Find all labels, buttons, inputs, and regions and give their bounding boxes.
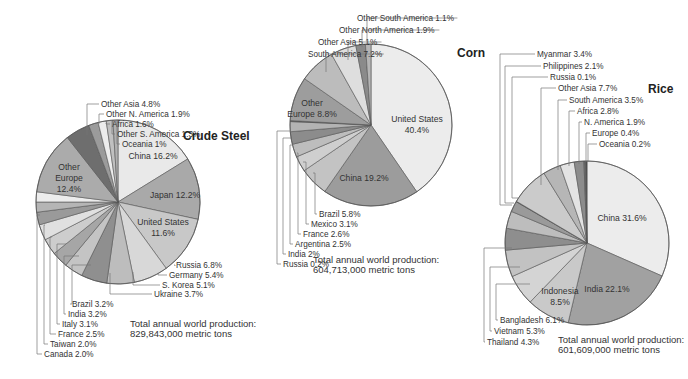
crude-steel-pie [36,120,200,284]
leader-line [37,215,42,354]
crude-steel-title: Crude Steel [183,129,250,143]
slice-label: Bangladesh 6.1% [500,316,564,325]
slice-label: Other North America 1.9% [339,26,435,35]
inside-slice-label: China 16.2% [128,151,178,161]
slice-label: India 3.2% [68,310,107,319]
slice-label: Other South America 1.1% [357,14,454,23]
slice-label: Africa 1.6% [112,120,154,129]
slice-label: Russia 0.1% [550,73,596,82]
slice-label: Ukraine 3.7% [154,290,203,299]
slice-label: Canada 2.0% [44,350,94,359]
leader-line [588,144,597,162]
rice-title: Rice [648,82,674,96]
slice-label: Argentina 2.5% [295,240,351,249]
leader-line [569,111,575,166]
slice-label: Philippines 2.1% [543,62,604,71]
slice-label: Italy 3.1% [62,320,98,329]
slice-label: S. Korea 5.1% [162,281,215,290]
rice-pie [505,161,669,325]
slice-label: Other Asia 4.8% [101,100,160,109]
inside-slice-label: Europe 8.8% [287,109,337,119]
inside-slice-label: 8.5% [550,297,570,307]
inside-slice-label: China 31.6% [597,213,647,223]
inside-slice-label: 40.4% [405,125,430,135]
inside-slice-label: 12.4% [57,184,82,194]
inside-slice-label: China 19.2% [339,173,389,183]
rice-total-value: 601,609,000 metric tons [558,344,660,355]
inside-slice-label: Japan 12.2% [150,190,201,200]
slice-label: Mexico 3.1% [311,220,358,229]
slice-label: South America 7.2% [308,50,382,59]
slice-label: Oceania 1% [122,140,167,149]
slice-label: France 2.5% [58,330,104,339]
corn-total-value: 604,713,000 metric tons [313,264,415,275]
slice-label: Brazil 5.8% [319,210,360,219]
slice-label: Taiwan 2.0% [50,340,96,349]
slice-label: Myanmar 3.4% [537,50,592,59]
slice-label: Russia 6.8% [176,261,222,270]
leader-line [174,265,175,266]
inside-slice-label: United States [137,217,189,227]
inside-slice-label: Other [58,162,80,172]
slice-label: France 2.6% [303,230,349,239]
slice-label: Europe 0.4% [592,129,639,138]
slice-label: Thailand 4.3% [487,338,539,347]
inside-slice-label: Other [301,98,323,108]
inside-slice-label: Indonesia [541,286,578,296]
slice-label: Other N. America 1.9% [106,110,190,119]
slice-label: Vietnam 5.3% [494,327,545,336]
slice-label: South America 3.5% [569,96,643,105]
slice-label: N. America 1.9% [584,118,645,127]
slice-label: Africa 2.8% [577,107,619,116]
inside-slice-label: India 22.1% [584,284,630,294]
slice-label: Other Asia 7.7% [558,84,617,93]
pie-charts-figure: China 16.2%Japan 12.2%United States11.6%… [0,0,688,379]
slice-label: Oceania 0.2% [599,140,650,149]
inside-slice-label: 11.6% [151,228,175,238]
slice-label: Brazil 3.2% [72,300,113,309]
slice-label: Germany 5.4% [169,271,224,280]
inside-slice-label: United States [391,114,443,124]
leader-line [579,122,582,164]
leader-line [277,131,291,264]
leader-line [290,145,293,244]
corn-title: Corn [457,46,485,60]
crude-steel-total-value: 829,843,000 metric tons [130,328,232,339]
slice-label: Other Asia 5.1% [318,38,377,47]
leader-line [558,100,567,170]
leader-line [158,273,167,275]
inside-slice-label: Europe [55,173,83,183]
